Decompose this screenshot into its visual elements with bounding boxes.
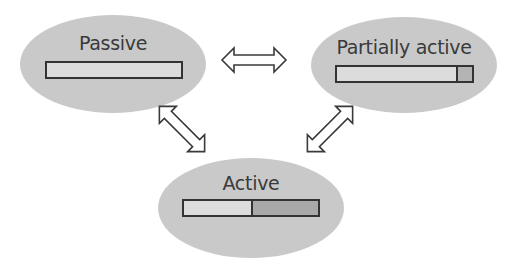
passive-active-arrow-icon — [151, 98, 213, 160]
passive-partially-active-arrow-icon — [222, 48, 286, 72]
transition-arrows — [0, 0, 511, 267]
partially-active-active-arrow-icon — [299, 98, 361, 160]
